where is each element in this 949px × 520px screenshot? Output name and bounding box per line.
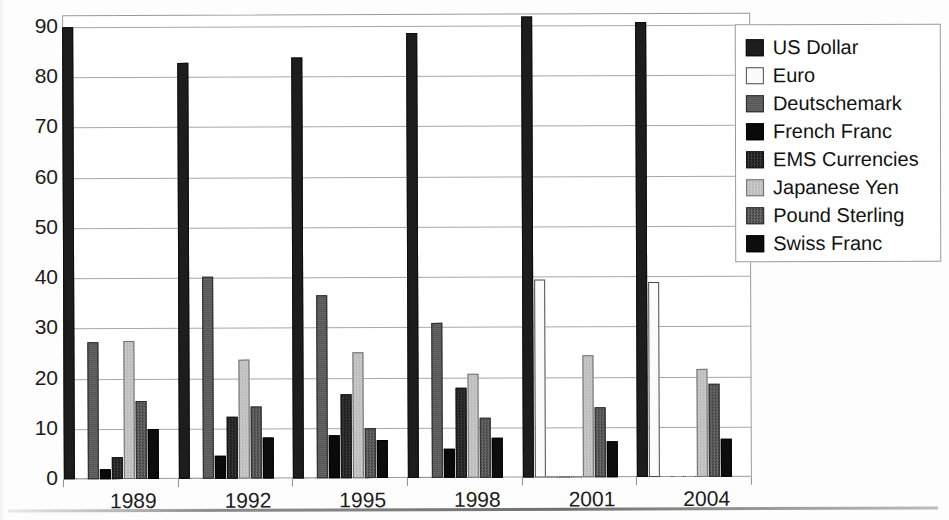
bar-gbp-1992 <box>250 406 261 478</box>
legend-swatch-jpy-icon <box>746 179 764 196</box>
legend-item-gbp[interactable]: Pound Sterling <box>746 201 934 229</box>
legend-label: Swiss Franc <box>773 233 882 253</box>
bar-gbp-2001 <box>594 407 605 477</box>
bar-jpy-1989 <box>123 341 135 479</box>
bar-chf-2001 <box>606 441 617 477</box>
bar-groups <box>62 13 752 480</box>
bar-jpy-2001 <box>582 355 593 477</box>
legend-label: EMS Currencies <box>773 149 919 169</box>
bar-usd-1998 <box>406 33 419 478</box>
bar-jpy-1992 <box>238 360 249 479</box>
bar-jpy-2004 <box>697 369 708 477</box>
x-tick-mark-2 <box>292 478 293 486</box>
x-tick-mark-0 <box>63 479 64 487</box>
legend-label: Euro <box>773 65 815 85</box>
legend-swatch-chf-icon <box>746 235 764 252</box>
x-tick-mark-4 <box>522 478 523 486</box>
x-tick-mark-6 <box>751 477 752 485</box>
chart-figure: 0102030405060708090 19891992199519982001… <box>0 0 949 520</box>
bar-usd-2001 <box>521 17 534 478</box>
bar-jpy-1998 <box>468 373 479 477</box>
legend-swatch-eur-icon <box>746 67 764 84</box>
y-tick-label-50: 50 <box>6 215 58 239</box>
legend-item-frf[interactable]: French Franc <box>746 117 934 145</box>
bar-frf-1989 <box>100 470 111 480</box>
legend-label: Deutschemark <box>773 93 902 113</box>
bar-usd-1989 <box>62 27 75 479</box>
bar-group-1995 <box>291 14 407 478</box>
legend-item-dem[interactable]: Deutschemark <box>746 89 934 117</box>
legend-item-jpy[interactable]: Japanese Yen <box>746 173 934 201</box>
y-tick-label-30: 30 <box>6 315 58 339</box>
bar-dem-1992 <box>202 276 214 478</box>
bar-chf-1998 <box>492 438 503 478</box>
y-tick-label-40: 40 <box>6 265 58 289</box>
bar-ems-1998 <box>456 388 467 478</box>
plot-area <box>62 13 752 480</box>
legend-swatch-dem-icon <box>746 95 764 112</box>
bar-eur-2001 <box>534 280 546 478</box>
legend-swatch-gbp-icon <box>746 207 764 224</box>
bar-frf-1998 <box>444 449 455 478</box>
bar-group-2001 <box>521 13 637 477</box>
scan-edge-shadow <box>0 0 6 520</box>
y-tick-label-0: 0 <box>6 466 58 490</box>
legend-label: US Dollar <box>773 37 859 57</box>
bar-chf-1995 <box>377 440 388 478</box>
bar-usd-1992 <box>177 63 190 479</box>
legend-item-ems[interactable]: EMS Currencies <box>746 145 934 173</box>
bar-eur-2004 <box>649 282 661 477</box>
bar-group-1989 <box>62 15 178 479</box>
bar-dem-1995 <box>317 295 329 478</box>
x-tick-mark-5 <box>636 477 637 485</box>
legend-label: Japanese Yen <box>773 177 899 197</box>
bar-chf-2004 <box>721 439 732 477</box>
legend-swatch-ems-icon <box>746 151 764 168</box>
y-tick-label-60: 60 <box>6 165 58 189</box>
bar-group-1992 <box>177 14 293 478</box>
y-axis: 0102030405060708090 <box>0 0 58 520</box>
y-tick-label-80: 80 <box>6 64 58 88</box>
legend-swatch-frf-icon <box>746 123 764 140</box>
bar-ems-1989 <box>112 458 123 480</box>
bar-dem-1998 <box>431 323 443 478</box>
bar-frf-1992 <box>214 456 225 479</box>
legend-item-eur[interactable]: Euro <box>746 61 934 89</box>
legend-item-usd[interactable]: US Dollar <box>746 33 934 61</box>
bar-chf-1989 <box>148 429 159 479</box>
bar-usd-1995 <box>292 57 305 478</box>
bar-gbp-1989 <box>136 401 147 479</box>
legend-item-chf[interactable]: Swiss Franc <box>746 229 934 257</box>
bar-chf-1992 <box>262 438 273 479</box>
bar-gbp-2004 <box>709 384 720 477</box>
bar-dem-1989 <box>87 342 99 479</box>
legend-label: French Franc <box>773 121 892 141</box>
legend-swatch-usd-icon <box>746 39 764 56</box>
bar-usd-2004 <box>635 22 648 477</box>
bar-jpy-1995 <box>353 353 364 479</box>
legend: US DollarEuroDeutschemarkFrench FrancEMS… <box>735 24 941 262</box>
bar-frf-1995 <box>329 436 340 479</box>
x-tick-mark-3 <box>407 478 408 486</box>
y-tick-label-90: 90 <box>6 14 58 38</box>
bar-ems-1995 <box>341 394 352 478</box>
y-tick-label-10: 10 <box>6 416 58 440</box>
bar-ems-1992 <box>226 417 237 479</box>
y-tick-label-20: 20 <box>6 366 58 390</box>
x-axis: 198919921995199820012004 <box>63 477 751 520</box>
x-tick-mark-1 <box>178 479 179 487</box>
bar-gbp-1995 <box>365 428 376 478</box>
legend-label: Pound Sterling <box>773 205 904 225</box>
bar-gbp-1998 <box>480 418 491 478</box>
y-tick-label-70: 70 <box>6 114 58 138</box>
bar-group-1998 <box>406 14 522 478</box>
